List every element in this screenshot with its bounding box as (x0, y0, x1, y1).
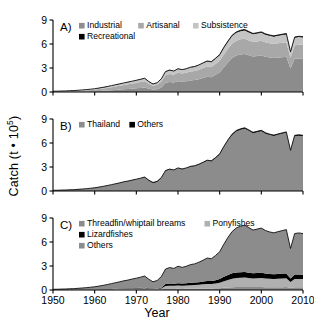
panel-label: B) (60, 120, 72, 132)
x-tick-label: 2000 (250, 294, 274, 306)
legend-swatch (129, 122, 135, 128)
legend-label: Lizardfishes (87, 229, 133, 239)
y-tick-label: 6 (41, 236, 47, 248)
y-tick-label: 0 (41, 185, 47, 197)
y-tick-label: 6 (41, 137, 47, 149)
y-tick-label: 6 (41, 38, 47, 50)
y-tick-label: 0 (41, 86, 47, 98)
panel-label: C) (60, 219, 72, 231)
panel-c: 03691950196019701980199020002010C)Thread… (41, 212, 314, 306)
y-tick-label: 3 (41, 62, 47, 74)
legend-label: Ponyfishes (213, 218, 255, 228)
area-series (53, 129, 303, 191)
x-tick-label: 1950 (41, 294, 65, 306)
legend-swatch (138, 23, 144, 29)
stacked-area-figure: 0369A)IndustrialArtisanalSubsistenceRecr… (0, 0, 314, 327)
x-tick-label: 1990 (208, 294, 232, 306)
legend-label: Recreational (87, 31, 135, 41)
legend-label: Others (137, 119, 163, 129)
x-tick-label: 1960 (83, 294, 107, 306)
legend-label: Subsistence (201, 20, 248, 30)
panel-a: 0369A)IndustrialArtisanalSubsistenceRecr… (41, 14, 303, 98)
y-tick-label: 9 (41, 113, 47, 125)
x-tick-label: 1980 (166, 294, 190, 306)
y-tick-label: 9 (41, 14, 47, 26)
legend-swatch (79, 122, 85, 128)
y-tick-label: 3 (41, 161, 47, 173)
legend-label: Artisanal (146, 20, 180, 30)
legend-label: Thailand (87, 119, 120, 129)
legend-swatch (79, 221, 85, 227)
y-tick-label: 3 (41, 260, 47, 272)
legend-swatch (79, 243, 85, 249)
legend-swatch (79, 34, 85, 40)
panel-label: A) (60, 21, 72, 33)
x-tick-label: 2010 (291, 294, 314, 306)
legend-swatch (79, 23, 85, 29)
x-tick-label: 1970 (125, 294, 149, 306)
legend-swatch (205, 221, 211, 227)
legend-label: Industrial (87, 20, 122, 30)
legend-swatch (193, 23, 199, 29)
legend-label: Others (87, 240, 113, 250)
y-tick-label: 9 (41, 212, 47, 224)
panel-b: 0369B)ThailandOthers (41, 113, 303, 197)
legend-swatch (79, 232, 85, 238)
legend-label: Threadfin/whiptail breams (87, 218, 185, 228)
